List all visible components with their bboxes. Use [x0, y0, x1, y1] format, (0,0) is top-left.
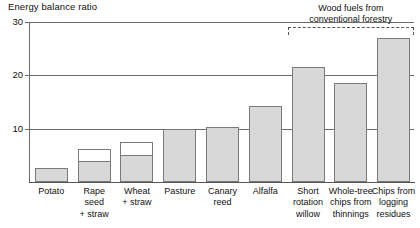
category-label-line: Canary: [199, 186, 246, 197]
y-tick-label-20: 20: [3, 70, 23, 80]
category-label-line: chips from: [327, 197, 374, 208]
category-label-line: Chips from: [370, 186, 417, 197]
bar-3: [163, 129, 196, 182]
bar-1-straw-segment: [78, 149, 111, 162]
bar-2-straw-segment: [120, 142, 153, 156]
category-label-8: Chips fromloggingresidues: [370, 186, 417, 220]
bar-5: [249, 106, 282, 182]
category-label-line: Potato: [28, 186, 75, 197]
x-axis-baseline: [29, 182, 415, 183]
category-label-line: logging: [370, 197, 417, 208]
bar-2: [120, 142, 153, 182]
category-label-line: Wheat: [114, 186, 161, 197]
energy-balance-ratio-chart: Energy balance ratio 102030 PotatoRapese…: [0, 0, 420, 228]
category-label-2: Wheat+ straw: [114, 186, 161, 209]
category-label-line: rotation: [285, 197, 332, 208]
category-label-line: residues: [370, 209, 417, 220]
bar-8: [377, 38, 410, 182]
y-tick-mark-30: [25, 22, 30, 23]
y-tick-label-30: 30: [3, 17, 23, 27]
annotation-line: Wood fuels from: [288, 3, 415, 14]
annotation-line: conventional forestry: [288, 14, 415, 25]
category-label-4: Canaryreed: [199, 186, 246, 209]
category-label-3: Pasture: [156, 186, 203, 197]
wood-fuels-annotation-text: Wood fuels fromconventional forestry: [288, 3, 415, 24]
category-label-5: Alfalfa: [242, 186, 289, 197]
category-label-0: Potato: [28, 186, 75, 197]
bar-4: [206, 127, 239, 182]
bar-1: [78, 149, 111, 182]
y-tick-mark-20: [25, 75, 30, 76]
category-label-line: Short: [285, 186, 332, 197]
y-tick-label-10: 10: [3, 124, 23, 134]
category-label-6: Shortrotationwillow: [285, 186, 332, 220]
gridline-20: [29, 75, 414, 76]
category-label-line: reed: [199, 197, 246, 208]
category-label-line: seed: [71, 197, 118, 208]
category-label-line: Alfalfa: [242, 186, 289, 197]
bar-7: [334, 83, 367, 182]
category-label-7: Whole-treechips fromthinnings: [327, 186, 374, 220]
category-label-line: Whole-tree: [327, 186, 374, 197]
category-label-line: thinnings: [327, 209, 374, 220]
category-label-line: Rape: [71, 186, 118, 197]
chart-axis-title: Energy balance ratio: [8, 1, 97, 12]
category-label-line: Pasture: [156, 186, 203, 197]
category-label-1: Rapeseed+ straw: [71, 186, 118, 220]
category-label-line: + straw: [114, 197, 161, 208]
bar-6: [292, 67, 325, 182]
y-tick-mark-10: [25, 129, 30, 130]
category-label-line: + straw: [71, 209, 118, 220]
category-label-line: willow: [285, 209, 332, 220]
bar-0: [35, 168, 68, 182]
wood-fuels-dashed-bracket: [288, 27, 415, 35]
